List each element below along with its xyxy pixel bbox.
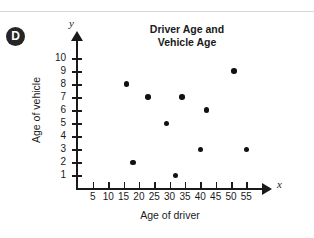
- scatter-plot: y x 12345678910 510152025303540455055 Ag…: [0, 0, 314, 238]
- x-tick-label-55: 55: [235, 192, 257, 202]
- data-point: [145, 94, 151, 100]
- x-tick-35: [185, 182, 187, 190]
- x-tick-40: [200, 182, 202, 190]
- y-tick-label-3: 3: [52, 144, 66, 154]
- y-tick-6: [72, 110, 82, 112]
- y-tick-5: [72, 123, 82, 125]
- x-axis-arrow-icon: [262, 183, 272, 195]
- x-tick-20: [139, 182, 141, 190]
- data-point: [179, 94, 185, 100]
- data-point: [173, 173, 179, 179]
- y-tick-label-1: 1: [52, 170, 66, 180]
- y-tick-label-10: 10: [52, 53, 66, 63]
- y-tick-label-5: 5: [52, 118, 66, 128]
- y-tick-label-6: 6: [52, 105, 66, 115]
- y-tick-label-2: 2: [52, 157, 66, 167]
- data-point: [204, 107, 210, 113]
- data-point: [231, 68, 237, 74]
- y-tick-label-4: 4: [52, 131, 66, 141]
- y-axis-title: Age of vehicle: [30, 65, 42, 155]
- y-tick-9: [72, 71, 82, 73]
- x-tick-5: [93, 182, 95, 190]
- x-axis-letter: x: [277, 178, 282, 190]
- y-axis-letter: y: [69, 17, 74, 29]
- y-tick-label-7: 7: [52, 92, 66, 102]
- data-point: [244, 147, 250, 153]
- y-tick-10: [72, 58, 82, 60]
- y-tick-1: [72, 175, 82, 177]
- x-tick-30: [170, 182, 172, 190]
- y-tick-2: [72, 162, 82, 164]
- data-point: [164, 121, 170, 127]
- x-tick-55: [246, 182, 248, 190]
- y-axis-line: [76, 40, 78, 190]
- x-tick-25: [154, 182, 156, 190]
- data-point: [130, 160, 136, 166]
- y-tick-4: [72, 136, 82, 138]
- y-tick-label-9: 9: [52, 66, 66, 76]
- y-tick-3: [72, 149, 82, 151]
- y-tick-8: [72, 84, 82, 86]
- data-point: [198, 147, 204, 153]
- x-tick-10: [108, 182, 110, 190]
- x-tick-15: [124, 182, 126, 190]
- x-tick-50: [231, 182, 233, 190]
- data-point: [124, 81, 130, 87]
- y-tick-label-8: 8: [52, 79, 66, 89]
- x-tick-45: [216, 182, 218, 190]
- y-axis-arrow-icon: [71, 31, 83, 41]
- y-tick-7: [72, 97, 82, 99]
- x-axis-title: Age of driver: [95, 209, 245, 221]
